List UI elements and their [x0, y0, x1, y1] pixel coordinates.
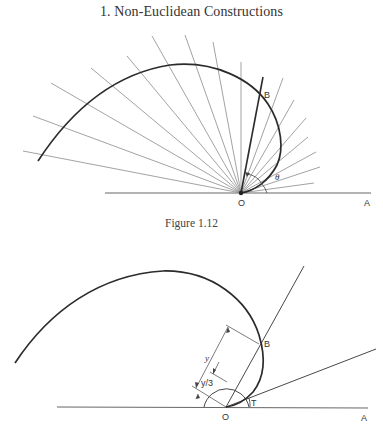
label-a: A	[361, 413, 367, 423]
ray-7	[213, 42, 241, 193]
angle-arc	[249, 398, 250, 407]
label-a: A	[364, 198, 370, 208]
ray-11	[241, 118, 306, 193]
label-b: B	[264, 90, 270, 100]
figure-caption: Figure 1.12	[0, 217, 383, 229]
line-ot	[226, 349, 376, 407]
figure-trisection: y y/3 B T O A	[15, 266, 376, 423]
ray-0	[23, 151, 241, 193]
ray-15	[241, 183, 314, 193]
label-t: T	[251, 398, 257, 408]
label-o: O	[238, 198, 245, 208]
ray-2	[51, 83, 241, 193]
label-theta: θ	[275, 172, 280, 182]
figures-canvas: θ B O A y y/3 B T O	[0, 0, 383, 432]
line-ob	[226, 266, 304, 407]
arrowhead-icon	[196, 394, 200, 399]
label-y: y	[204, 353, 209, 363]
figure-1-12: θ B O A	[23, 35, 371, 208]
extension-line-b	[226, 325, 259, 344]
baseline-oa	[57, 407, 368, 408]
label-o: O	[222, 412, 229, 422]
label-b: B	[264, 339, 270, 349]
ray-4	[127, 56, 241, 193]
ray-5	[152, 36, 241, 193]
label-y-third: y/3	[201, 378, 213, 388]
origin-point	[239, 191, 243, 195]
trisectrix-curve	[15, 271, 263, 407]
arrowhead-icon	[195, 382, 199, 388]
